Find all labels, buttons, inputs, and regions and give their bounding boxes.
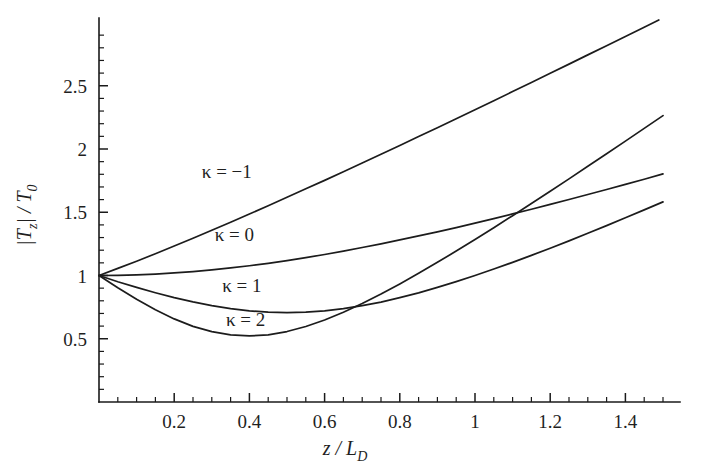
plot-axes xyxy=(99,18,680,402)
y-tick-label: 2.5 xyxy=(63,76,87,97)
x-tick-label: 0.2 xyxy=(162,411,186,432)
axis-tick-labels: 0.20.40.60.811.21.40.511.522.5 xyxy=(63,76,638,432)
x-tick-label: 1.2 xyxy=(538,411,562,432)
curve-label: κ = 0 xyxy=(215,224,254,245)
svg-text:z / LD: z / LD xyxy=(322,437,368,464)
y-tick-label: 1.5 xyxy=(63,202,87,223)
curve-label: κ = −1 xyxy=(202,161,252,182)
chart-plot: 0.20.40.60.811.21.40.511.522.5 κ = −1κ =… xyxy=(0,0,723,470)
svg-text:|Tz| / T0: |Tz| / T0 xyxy=(13,184,40,245)
data-curves xyxy=(99,20,663,336)
x-axis-title-text: z / L xyxy=(322,437,357,459)
y-tick-label: 1 xyxy=(78,266,88,287)
x-axis-title-subscript: D xyxy=(356,449,367,464)
curve-label: κ = 1 xyxy=(222,275,261,296)
x-tick-label: 0.4 xyxy=(238,411,262,432)
figure-container: 0.20.40.60.811.21.40.511.522.5 κ = −1κ =… xyxy=(0,0,723,470)
x-tick-label: 1 xyxy=(470,411,480,432)
y-tick-label: 2 xyxy=(78,139,88,160)
y-axis-title: |Tz| / T0 xyxy=(13,184,40,245)
x-axis-title: z / LD xyxy=(322,437,368,464)
y-axis-title-mid: | / T xyxy=(13,190,36,224)
y-tick-label: 0.5 xyxy=(63,329,87,350)
axis-ticks xyxy=(99,35,663,402)
data-curve-neg1 xyxy=(99,20,659,276)
y-axis-title-subscript-0: 0 xyxy=(25,184,40,191)
x-tick-label: 0.8 xyxy=(388,411,412,432)
data-curve-0 xyxy=(99,174,663,276)
x-tick-label: 0.6 xyxy=(313,411,337,432)
curve-label: κ = 2 xyxy=(226,309,265,330)
data-curve-1 xyxy=(99,202,663,313)
x-tick-label: 1.4 xyxy=(614,411,638,432)
